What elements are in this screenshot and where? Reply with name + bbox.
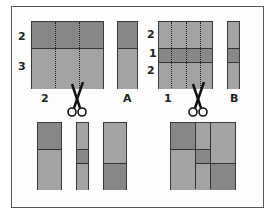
left-row-label-top: 2	[18, 31, 26, 42]
right-bottom-label: 1	[164, 93, 172, 104]
result-strip-1	[37, 122, 62, 190]
assembled-vseam-1	[195, 123, 196, 189]
strip-a	[117, 21, 138, 89]
strip-b-mid	[228, 48, 239, 62]
assembled-hseam-left	[171, 149, 210, 150]
right-block-cut-line-3	[200, 22, 201, 88]
right-fabric-block	[158, 21, 213, 89]
strip-a-seam	[118, 48, 137, 49]
result-strip-3-dark	[104, 163, 126, 190]
left-row-label-bottom: 3	[18, 61, 26, 72]
result-strip-2	[76, 122, 89, 190]
assembled-block	[170, 122, 236, 190]
right-row-label-1: 2	[147, 29, 155, 40]
right-row-label-3: 2	[147, 65, 155, 76]
strip-b-top	[228, 22, 239, 48]
strip-a-label: A	[123, 93, 132, 104]
assembled-bottom-left	[171, 149, 195, 190]
right-block-cut-line-2	[186, 22, 187, 88]
right-row-label-2: 1	[149, 48, 157, 59]
right-block-cut-line-1	[171, 22, 172, 88]
assembled-vseam-2	[210, 123, 211, 189]
result-strip-3	[103, 122, 127, 190]
assembled-top-left	[171, 123, 195, 149]
assembled-mid-center	[195, 149, 210, 163]
strip-b-bottom	[228, 62, 239, 89]
result-strip-2-bottom	[77, 163, 88, 190]
scissors-icon-left	[66, 82, 88, 120]
left-block-cut-line-1	[55, 22, 56, 88]
result-strip-1-dark	[38, 123, 61, 149]
assembled-top-right	[210, 123, 235, 163]
result-strip-2-seam-1	[77, 149, 88, 150]
left-block-dark-band	[32, 22, 103, 48]
result-strip-2-mid	[77, 149, 88, 163]
result-strip-3-seam	[104, 163, 126, 164]
strip-b-seam-1	[228, 48, 239, 49]
assembled-hseam-right	[195, 163, 236, 164]
result-strip-1-light	[38, 149, 61, 190]
strip-a-dark	[118, 22, 137, 48]
assembled-mid-top	[195, 123, 210, 149]
strip-b-label: B	[230, 93, 238, 104]
left-block-cut-line-2	[79, 22, 80, 88]
result-strip-1-seam	[38, 149, 61, 150]
left-fabric-block	[31, 21, 104, 89]
strip-b	[227, 21, 240, 89]
strip-a-light	[118, 48, 137, 89]
strip-b-seam-2	[228, 62, 239, 63]
result-strip-2-top	[77, 123, 88, 149]
result-strip-3-light	[104, 123, 126, 163]
assembled-bottom-right	[210, 163, 235, 190]
result-strip-2-seam-2	[77, 163, 88, 164]
scissors-icon-right	[187, 82, 209, 120]
left-block-seam	[32, 48, 103, 49]
assembled-mid-bottom	[195, 163, 210, 190]
left-bottom-label: 2	[41, 93, 49, 104]
